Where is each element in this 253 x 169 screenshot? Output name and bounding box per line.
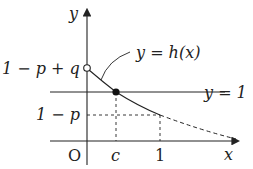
y-tick-1-minus-p-plus-q-label: 1 − p + q (2, 59, 80, 78)
curve-label: y = h(x) (135, 43, 200, 62)
function-graph: y x O c 1 1 − p + q 1 − p y = 1 y = h(x) (0, 0, 253, 169)
h-curve-dashed (160, 115, 236, 139)
y-tick-1-minus-p-label: 1 − p (36, 105, 80, 124)
origin-label: O (68, 146, 81, 165)
curve-label-leader (101, 52, 130, 80)
y-axis-label: y (68, 4, 79, 23)
x-tick-1-label: 1 (155, 146, 165, 165)
open-circle-marker (84, 65, 91, 72)
x-tick-c-label: c (111, 146, 120, 165)
filled-dot-marker (112, 88, 119, 95)
y-equals-1-label: y = 1 (203, 83, 247, 102)
x-axis-label: x (224, 145, 233, 164)
